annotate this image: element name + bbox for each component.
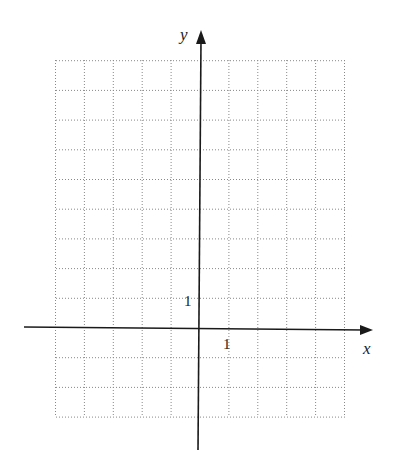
y-axis	[198, 40, 201, 450]
x-tick-label: 1	[223, 336, 231, 352]
x-axis	[24, 327, 365, 330]
coordinate-plane: x y 1 1	[0, 0, 395, 471]
x-axis-arrow-icon	[360, 325, 373, 335]
x-axis-label: x	[362, 339, 371, 358]
y-tick-label: 1	[184, 293, 192, 309]
y-axis-label: y	[178, 25, 188, 44]
y-axis-arrow-icon	[196, 30, 206, 44]
